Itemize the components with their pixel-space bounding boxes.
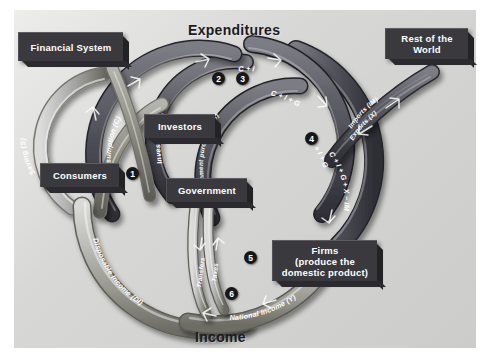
marker-5: 5 bbox=[244, 251, 257, 264]
box-firms-line2: (produce the bbox=[295, 256, 355, 267]
box-firms-line1: Firms bbox=[312, 245, 339, 256]
marker-2: 2 bbox=[212, 72, 225, 85]
box-financial-system-label: Financial System bbox=[31, 42, 112, 53]
box-rest-of-the-world-line1: Rest of the bbox=[401, 33, 452, 44]
box-investors[interactable]: Investors bbox=[144, 114, 215, 138]
marker-4: 4 bbox=[305, 132, 318, 145]
box-financial-system[interactable]: Financial System bbox=[18, 32, 123, 61]
box-rest-of-the-world[interactable]: Rest of the World bbox=[385, 28, 468, 59]
title-income: Income bbox=[195, 329, 246, 345]
marker-1: 1 bbox=[126, 167, 139, 180]
box-government[interactable]: Government bbox=[166, 178, 247, 202]
box-investors-label: Investors bbox=[158, 121, 202, 132]
box-rest-of-the-world-line2: World bbox=[413, 44, 441, 55]
box-consumers-label: Consumers bbox=[53, 170, 107, 181]
marker-6: 6 bbox=[225, 287, 238, 300]
box-firms-line3: domestic product) bbox=[282, 267, 368, 278]
box-government-label: Government bbox=[178, 185, 236, 196]
title-expenditures: Expenditures bbox=[188, 22, 280, 38]
box-consumers[interactable]: Consumers bbox=[40, 163, 119, 187]
marker-3: 3 bbox=[236, 72, 249, 85]
figure-canvas: Saving (S) Consumption (C) Investment (I… bbox=[0, 0, 490, 364]
box-firms[interactable]: Firms (produce the domestic product) bbox=[272, 240, 377, 281]
